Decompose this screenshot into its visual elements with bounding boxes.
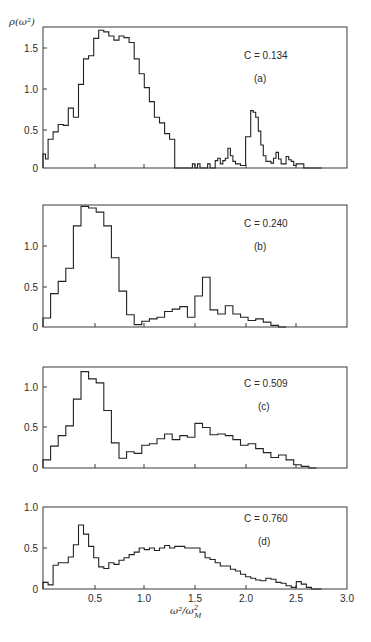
x-tick-labels: 0.5 1.0 1.5 2.0 2.5 3.0 bbox=[88, 593, 354, 604]
y-tick-label: 1.0 bbox=[24, 241, 38, 252]
panel-c-concentration: C = 0.509 bbox=[244, 378, 288, 389]
y-tick-label: 0 bbox=[32, 163, 38, 174]
y-tick-label: 0.5 bbox=[24, 125, 38, 136]
panel-d-label: (d) bbox=[258, 536, 270, 547]
x-tick-label: 1.5 bbox=[188, 593, 202, 604]
panel-c-frame bbox=[43, 367, 347, 468]
panel-a: 1.5 1.0 0.5 0 C = 0.134 (a) bbox=[24, 27, 347, 174]
y-tick-label: 1.0 bbox=[24, 502, 38, 513]
y-tick-label: 1.0 bbox=[24, 84, 38, 95]
panel-d-x-ticks bbox=[95, 585, 296, 589]
panel-d: 1.0 0.5 0 C = 0.760 (d) bbox=[24, 502, 347, 595]
x-tick-label: 3.0 bbox=[340, 593, 354, 604]
panel-b-x-ticks bbox=[95, 323, 296, 327]
panel-d-concentration: C = 0.760 bbox=[244, 513, 288, 524]
panel-a-label: (a) bbox=[254, 73, 266, 84]
panel-d-histogram bbox=[43, 525, 322, 589]
x-tick-label: 1.0 bbox=[137, 593, 151, 604]
x-tick-label: 2.0 bbox=[239, 593, 253, 604]
y-tick-label: 0.5 bbox=[24, 543, 38, 554]
y-axis-label: ρ(ω²) bbox=[8, 16, 35, 27]
figure-container: ρ(ω²) 1.5 1.0 0.5 0 C = 0.134 (a) bbox=[0, 0, 371, 642]
panel-a-frame bbox=[43, 27, 347, 168]
y-tick-label: 0 bbox=[32, 463, 38, 474]
y-tick-label: 1.5 bbox=[24, 43, 38, 54]
x-tick-label: 2.5 bbox=[289, 593, 303, 604]
y-tick-label: 0 bbox=[32, 322, 38, 333]
y-tick-label: 1.0 bbox=[24, 382, 38, 393]
panel-b-label: (b) bbox=[254, 241, 266, 252]
y-tick-label: 0 bbox=[32, 584, 38, 595]
panel-d-y-ticks: 1.0 0.5 0 bbox=[24, 502, 47, 595]
panel-b-y-ticks: 1.0 0.5 0 bbox=[24, 241, 47, 333]
x-tick-label: 0.5 bbox=[88, 593, 102, 604]
y-tick-label: 0.5 bbox=[24, 422, 38, 433]
panel-a-x-ticks bbox=[95, 164, 296, 168]
panel-b-concentration: C = 0.240 bbox=[244, 218, 288, 229]
panel-a-concentration: C = 0.134 bbox=[244, 50, 288, 61]
panel-b: 1.0 0.5 0 C = 0.240 (b) bbox=[24, 205, 347, 333]
panel-c: 1.0 0.5 0 C = 0.509 (c) bbox=[24, 367, 347, 474]
panel-c-label: (c) bbox=[258, 401, 270, 412]
y-tick-label: 0.5 bbox=[24, 282, 38, 293]
panel-c-x-ticks bbox=[95, 464, 296, 468]
x-axis-label: ω²/ω2M bbox=[170, 604, 202, 620]
